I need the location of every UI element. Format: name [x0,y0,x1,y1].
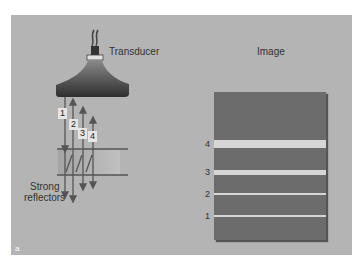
panel-letter: a [15,244,19,253]
image-label: Image [257,46,285,57]
echo-label-2: 2 [69,119,78,130]
reflector-label-line2: reflectors [24,192,65,203]
band-4 [214,140,326,148]
band-number-3: 3 [205,167,210,177]
band-2 [214,193,326,195]
ultrasound-image [214,92,326,240]
reflector-label-line1: Strong [30,181,59,192]
echo-label-1: 1 [58,108,67,119]
band-1 [214,215,326,217]
transducer-label: Transducer [109,46,159,57]
echo-label-3: 3 [78,128,87,139]
band-number-2: 2 [205,189,210,199]
band-3 [214,170,326,175]
band-number-1: 1 [205,211,210,221]
band-number-4: 4 [205,139,210,149]
echo-label-4: 4 [88,131,97,142]
